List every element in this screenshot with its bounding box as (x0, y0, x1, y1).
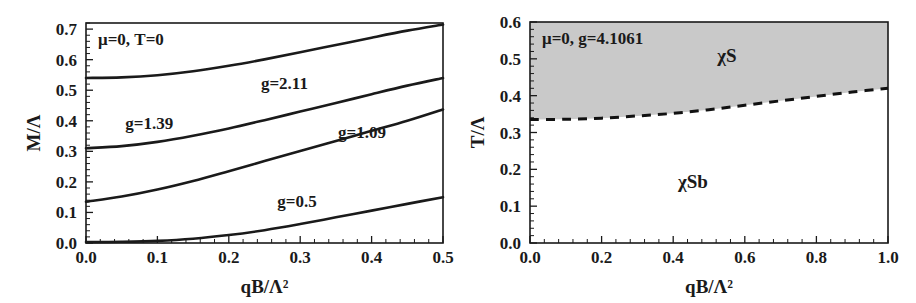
curve-label: g=1.09 (338, 123, 386, 142)
y-tick-label: 0.3 (56, 142, 77, 161)
y-tick-label: 0.0 (56, 234, 77, 253)
panel-right-phase-diagram: 0.00.20.40.60.81.00.00.10.20.30.40.50.6q… (458, 0, 916, 303)
y-tick-label: 0.2 (500, 160, 521, 179)
x-tick-label: 0.6 (734, 248, 755, 267)
x-tick-label: 0.3 (290, 248, 311, 267)
panel-annotation: μ=0, g=4.1061 (542, 29, 643, 48)
y-tick-label: 0.5 (500, 50, 521, 69)
y-tick-label: 0.2 (56, 173, 77, 192)
x-axis-title: qB/Λ² (685, 276, 733, 297)
data-curve (86, 197, 443, 242)
y-tick-label: 0.7 (56, 20, 78, 39)
x-tick-label: 0.4 (361, 248, 383, 267)
y-tick-label: 0.0 (500, 234, 521, 253)
y-tick-label: 0.1 (500, 197, 521, 216)
y-tick-label: 0.6 (500, 13, 521, 32)
curve-label: g=2.11 (261, 74, 308, 93)
x-tick-label: 0.0 (519, 248, 540, 267)
y-tick-label: 0.4 (56, 112, 78, 131)
panel-annotation: μ=0, T=0 (98, 30, 164, 49)
right-plot-svg: 0.00.20.40.60.81.00.00.10.20.30.40.50.6q… (458, 0, 916, 303)
region-label: χSb (677, 171, 708, 192)
y-tick-label: 0.1 (56, 203, 77, 222)
x-tick-label: 0.2 (591, 248, 612, 267)
x-axis-title: qB/Λ² (241, 276, 289, 297)
curve-label: g=0.5 (277, 192, 316, 211)
x-tick-label: 0.0 (75, 248, 96, 267)
curve-label: g=1.39 (125, 114, 173, 133)
x-tick-label: 0.5 (432, 248, 453, 267)
y-tick-label: 0.4 (500, 87, 522, 106)
x-tick-label: 0.2 (218, 248, 239, 267)
x-tick-label: 0.1 (147, 248, 168, 267)
y-tick-label: 0.3 (500, 124, 521, 143)
y-tick-label: 0.5 (56, 81, 77, 100)
region-label: χS (716, 45, 736, 66)
x-tick-label: 0.4 (663, 248, 685, 267)
two-panel-figure: 0.00.10.20.30.40.50.00.10.20.30.40.50.60… (0, 0, 916, 303)
y-axis-title: M/Λ (23, 114, 44, 151)
left-plot-svg: 0.00.10.20.30.40.50.00.10.20.30.40.50.60… (0, 0, 458, 303)
y-axis-title: T/Λ (467, 116, 488, 148)
y-tick-label: 0.6 (56, 51, 77, 70)
panel-left-magnetization: 0.00.10.20.30.40.50.00.10.20.30.40.50.60… (0, 0, 458, 303)
x-tick-label: 0.8 (806, 248, 827, 267)
x-tick-label: 1.0 (877, 248, 898, 267)
